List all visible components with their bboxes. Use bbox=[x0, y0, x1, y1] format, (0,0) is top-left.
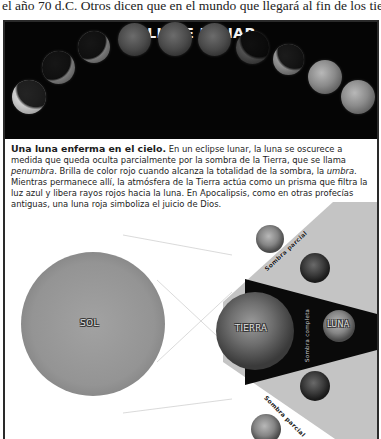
moon-bottom-outer-icon bbox=[251, 414, 281, 439]
moon-label: LUNA bbox=[327, 320, 350, 329]
term-umbra: umbra bbox=[327, 166, 354, 176]
moon-top-outer-icon bbox=[256, 225, 284, 253]
caption-text: Una luna enferma en el cielo. En un ecli… bbox=[11, 143, 373, 210]
intro-text: el año 70 d.C. Otros dicen que en el mun… bbox=[0, 0, 381, 14]
moon-phase-4-icon bbox=[118, 23, 151, 56]
moon-phase-10-icon bbox=[341, 80, 375, 114]
moon-phase-7-icon bbox=[236, 31, 269, 64]
term-penumbra: penumbra bbox=[11, 166, 54, 176]
moon-phase-6-icon bbox=[198, 23, 231, 56]
moon-bottom-inner-icon bbox=[300, 371, 330, 401]
moon-phase-2-icon bbox=[42, 51, 75, 84]
caption-lead: Una luna enferma en el cielo. bbox=[11, 143, 166, 154]
sun-label: SOL bbox=[80, 318, 99, 328]
umbra-label: Sombra completa bbox=[304, 309, 310, 362]
eclipse-photo-banner: ECLIPSE LUNAR bbox=[5, 22, 377, 139]
eclipse-infobox: ECLIPSE LUNAR Una luna enferma en el cie… bbox=[3, 20, 379, 439]
earth-label: TIERRA bbox=[235, 323, 267, 333]
moon-phase-3-icon bbox=[78, 31, 110, 63]
eclipse-diagram: SOL TIERRA LUNA Sombra parcial Sombra pa… bbox=[5, 202, 377, 439]
moon-phase-8-icon bbox=[273, 44, 304, 75]
eclipse-geometry-svg bbox=[5, 202, 377, 439]
moon-phase-9-icon bbox=[308, 60, 342, 94]
moon-top-inner-icon bbox=[300, 253, 330, 283]
moon-phase-5-icon bbox=[158, 22, 192, 56]
moon-phase-1-icon bbox=[12, 80, 46, 114]
